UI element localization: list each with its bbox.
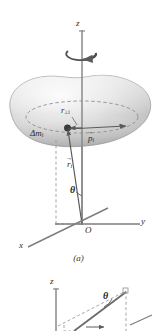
axis-z-label: z — [76, 19, 80, 28]
x-axis-line — [28, 208, 108, 247]
position-vector-label: ri — [67, 160, 72, 169]
physics-figure-angular-momentum: z r⊥i Δmi pi ri θ y O x (a) z θ — [0, 0, 157, 331]
mass-element-subscript: i — [42, 132, 44, 138]
panel-b-solid-vector — [74, 292, 126, 331]
panel-a-caption: (a) — [0, 253, 157, 263]
angle-theta-label: θ — [70, 185, 75, 195]
perp-radius-subscript: ⊥i — [64, 109, 69, 115]
origin-label: O — [85, 226, 92, 235]
momentum-label: pi — [88, 134, 94, 143]
rotation-arrow-icon — [66, 51, 96, 60]
panel-b-dashed-diagonal — [58, 291, 126, 326]
mass-element-label: Δmi — [30, 129, 44, 138]
panel-a-drawing — [0, 0, 157, 331]
axis-x-label: x — [19, 241, 23, 250]
panel-b-angle-theta-label: θ — [103, 291, 108, 301]
axis-y-label: y — [141, 217, 145, 226]
perp-radius-label: r⊥i — [61, 106, 70, 115]
panel-b-axis-z-label: z — [50, 277, 54, 286]
